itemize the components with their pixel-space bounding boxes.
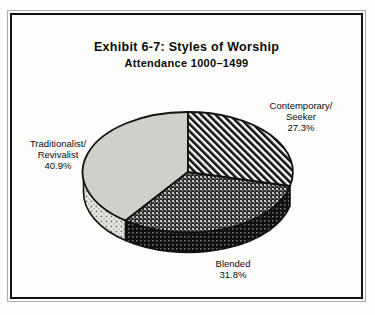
pie-label-traditionalist: Traditionalist/ Revivalist 40.9% [8, 138, 108, 171]
figure-canvas: Exhibit 6-7: Styles of Worship Attendanc… [0, 0, 375, 315]
pie-label-contemporary-line2: Seeker [252, 111, 350, 122]
pie-label-contemporary: Contemporary/ Seeker 27.3% [252, 100, 350, 133]
pie-label-traditionalist-line2: Revivalist [8, 149, 108, 160]
pie-label-contemporary-line1: Contemporary/ [252, 100, 350, 111]
pie-label-blended-line1: Blended [186, 258, 280, 269]
pie-label-traditionalist-value: 40.9% [8, 160, 108, 171]
pie-label-blended: Blended 31.8% [186, 258, 280, 280]
pie-label-blended-value: 31.8% [186, 269, 280, 280]
pie-label-traditionalist-line1: Traditionalist/ [8, 138, 108, 149]
pie-label-contemporary-value: 27.3% [252, 122, 350, 133]
